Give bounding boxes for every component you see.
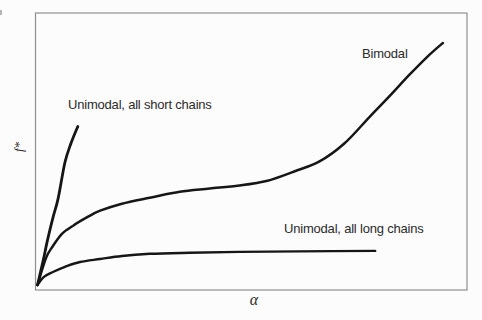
y-axis-label-f-star: f* [6, 134, 32, 160]
label-unimodal-long-chains: Unimodal, all long chains [284, 221, 424, 236]
scan-edge-artifact [0, 10, 2, 15]
label-unimodal-short-chains: Unimodal, all short chains [68, 97, 212, 112]
curve-unimodal-long [38, 251, 376, 285]
x-axis-label-alpha: α [240, 291, 268, 309]
plot-canvas [0, 0, 482, 320]
figure: Unimodal, all short chains Bimodal Unimo… [0, 0, 482, 320]
curve-bimodal [38, 43, 443, 285]
curve-unimodal-short [38, 127, 78, 286]
label-bimodal: Bimodal [362, 46, 408, 61]
